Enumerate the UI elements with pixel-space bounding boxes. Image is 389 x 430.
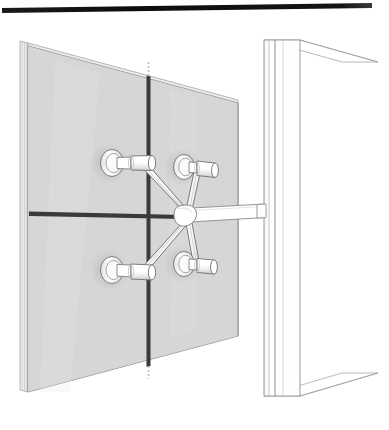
routel-neck xyxy=(189,162,197,173)
routel-barrel-cap xyxy=(211,260,218,274)
vertical-joint xyxy=(147,76,151,368)
header-rule xyxy=(2,3,372,13)
routel-barrel-cap xyxy=(148,156,155,171)
arm-mullion-connection xyxy=(257,204,266,218)
spider-fitting-drawing xyxy=(0,0,389,430)
routel-barrel-cap xyxy=(148,265,155,280)
structural-mullion xyxy=(264,40,378,396)
illustration-root xyxy=(0,0,389,430)
routel-neck xyxy=(189,259,197,270)
glass-edge-band xyxy=(20,41,28,392)
routel-barrel-cap xyxy=(212,163,219,177)
